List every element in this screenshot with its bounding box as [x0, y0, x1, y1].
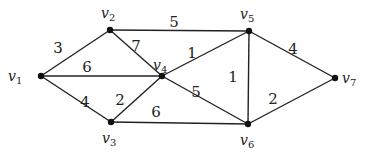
edge-weights-layer: 364752615142 — [53, 13, 298, 121]
node-label-v4: v4 — [153, 57, 167, 75]
node-label-v5: v5 — [240, 6, 254, 24]
edge-weight-v3-v6: 6 — [151, 103, 161, 121]
edge-weight-v2-v4: 7 — [131, 37, 141, 55]
edge-weight-v4-v6: 5 — [191, 83, 201, 101]
edge-weight-v5-v7: 4 — [288, 40, 298, 58]
node-v1 — [38, 73, 44, 79]
edge-weight-v3-v4: 2 — [115, 91, 125, 109]
edge-weight-v5-v6: 1 — [228, 68, 238, 86]
node-label-v3: v3 — [102, 130, 116, 148]
node-label-v2: v2 — [101, 5, 115, 23]
node-v3 — [108, 119, 114, 125]
node-v7 — [332, 75, 338, 81]
edge-v1-v3 — [41, 76, 111, 122]
node-label-v1: v1 — [8, 68, 22, 86]
edge-weight-v6-v7: 2 — [268, 90, 278, 108]
edge-weight-v4-v5: 1 — [187, 44, 197, 62]
node-label-v6: v6 — [240, 132, 254, 150]
edge-weight-v1-v2: 3 — [53, 39, 63, 57]
edge-v5-v6 — [248, 31, 249, 124]
node-label-v7: v7 — [342, 70, 356, 88]
edge-v3-v6 — [111, 122, 248, 124]
node-labels-layer: v1v2v3v4v5v6v7 — [8, 5, 356, 150]
edge-weight-v1-v3: 4 — [80, 93, 90, 111]
edge-v2-v5 — [110, 30, 249, 31]
edge-v1-v2 — [41, 30, 110, 76]
edge-v6-v7 — [248, 78, 335, 124]
edge-weight-v2-v5: 5 — [169, 13, 179, 31]
node-v6 — [245, 121, 251, 127]
edge-weight-v1-v4: 6 — [82, 58, 92, 76]
node-v5 — [246, 28, 252, 34]
weighted-graph-diagram: 364752615142 v1v2v3v4v5v6v7 — [0, 0, 369, 154]
node-v2 — [107, 27, 113, 33]
